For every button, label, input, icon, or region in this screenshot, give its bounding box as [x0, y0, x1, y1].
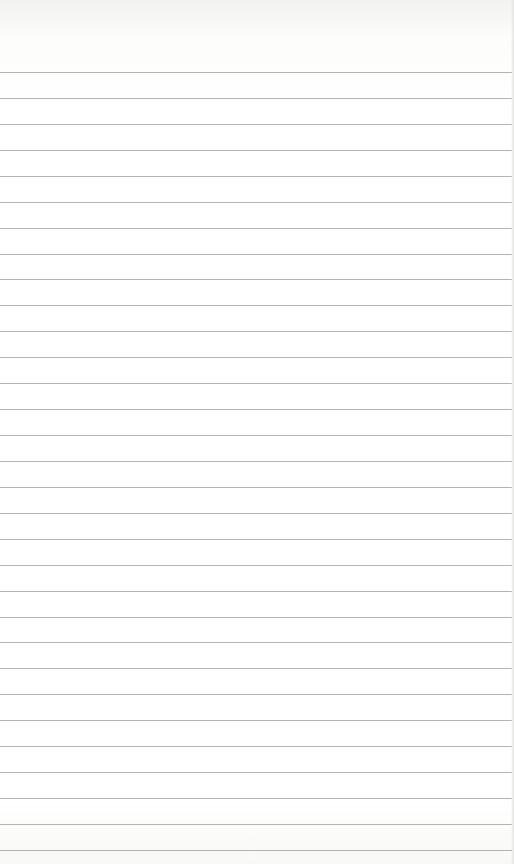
- ruled-line: [0, 694, 512, 695]
- ruled-line: [0, 591, 512, 592]
- ruled-line: [0, 565, 512, 566]
- ruled-line: [0, 409, 512, 410]
- ruled-line: [0, 435, 512, 436]
- ruled-line: [0, 176, 512, 177]
- ruled-line: [0, 798, 512, 799]
- ruled-line: [0, 331, 512, 332]
- ruled-line: [0, 850, 512, 851]
- ruled-line: [0, 228, 512, 229]
- ruled-line: [0, 720, 512, 721]
- ruled-line: [0, 642, 512, 643]
- ruled-line: [0, 513, 512, 514]
- lined-paper: [0, 0, 514, 864]
- ruled-line: [0, 357, 512, 358]
- ruled-line: [0, 124, 512, 125]
- ruled-line: [0, 383, 512, 384]
- ruled-line: [0, 150, 512, 151]
- ruled-line: [0, 539, 512, 540]
- ruled-line: [0, 617, 512, 618]
- ruled-line: [0, 461, 512, 462]
- ruled-line: [0, 72, 512, 73]
- ruled-line: [0, 202, 512, 203]
- ruled-line: [0, 254, 512, 255]
- ruled-line: [0, 746, 512, 747]
- ruled-line: [0, 824, 512, 825]
- ruled-line: [0, 279, 512, 280]
- ruled-line: [0, 98, 512, 99]
- ruled-line: [0, 668, 512, 669]
- ruled-line: [0, 772, 512, 773]
- ruled-line: [0, 305, 512, 306]
- ruled-line: [0, 487, 512, 488]
